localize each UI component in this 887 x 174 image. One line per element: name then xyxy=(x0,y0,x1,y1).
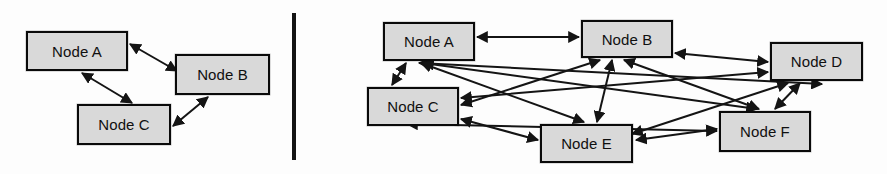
edge-R-C-R-D xyxy=(461,72,768,98)
node-r-d[interactable]: Node D xyxy=(770,42,863,81)
node-label: Node F xyxy=(740,124,790,139)
edge-R-B-R-E xyxy=(597,60,612,122)
panel-divider xyxy=(292,13,296,160)
node-l-c[interactable]: Node C xyxy=(77,104,171,145)
edge-R-B-R-D xyxy=(675,53,768,62)
node-label: Node B xyxy=(602,32,653,47)
node-label: Node C xyxy=(98,117,149,132)
diagram-canvas: Node ANode BNode C Node ANode BNode DNod… xyxy=(0,0,887,174)
node-l-a[interactable]: Node A xyxy=(26,31,128,71)
edge-R-A-R-C xyxy=(392,63,406,85)
node-label: Node C xyxy=(387,99,438,114)
node-r-f[interactable]: Node F xyxy=(719,111,811,152)
edge-L-A-L-B xyxy=(130,44,177,71)
edge-L-B-L-C xyxy=(173,97,208,126)
edge-R-C-R-E xyxy=(461,119,538,140)
node-r-a[interactable]: Node A xyxy=(383,22,475,61)
node-l-b[interactable]: Node B xyxy=(175,54,270,95)
node-r-e[interactable]: Node E xyxy=(540,124,633,163)
node-label: Node B xyxy=(197,67,248,82)
edge-L-A-L-C xyxy=(82,73,132,103)
edge-R-B-R-F xyxy=(624,60,759,109)
node-r-b[interactable]: Node B xyxy=(581,20,673,58)
node-r-c[interactable]: Node C xyxy=(367,87,459,126)
node-label: Node A xyxy=(52,44,102,59)
node-label: Node E xyxy=(561,136,612,151)
node-label: Node A xyxy=(404,34,454,49)
node-label: Node D xyxy=(791,54,842,69)
